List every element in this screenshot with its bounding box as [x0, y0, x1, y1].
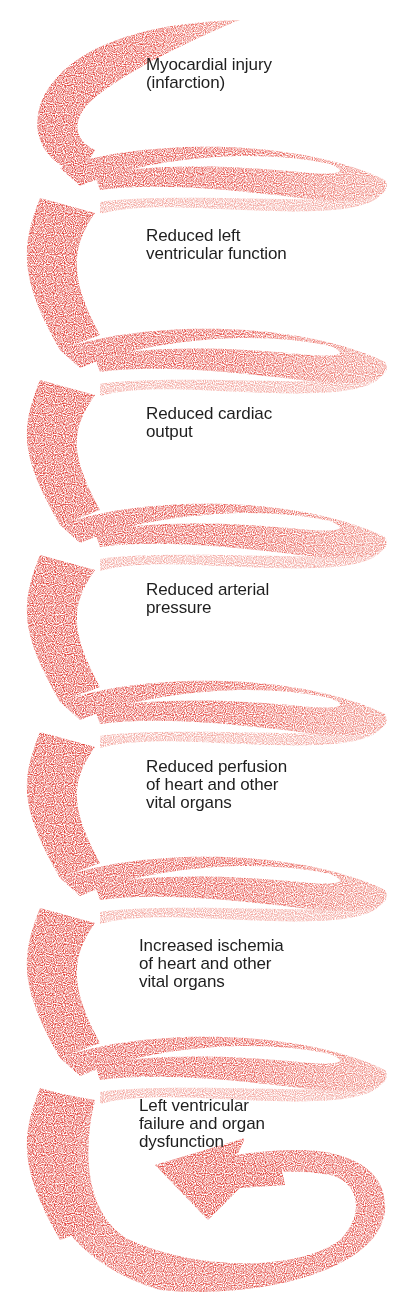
- spiral-step-label: Reduced arterial pressure: [146, 581, 269, 617]
- spiral-step-label: Myocardial injury (infarction): [146, 56, 272, 92]
- spiral-step-label: Reduced cardiac output: [146, 405, 272, 441]
- spiral-step-label: Left ventricular failure and organ dysfu…: [139, 1097, 265, 1151]
- spiral-step-label: Reduced left ventricular function: [146, 227, 287, 263]
- spiral-step-label: Reduced perfusion of heart and other vit…: [146, 758, 287, 812]
- spiral-step-label: Increased ischemia of heart and other vi…: [139, 937, 284, 991]
